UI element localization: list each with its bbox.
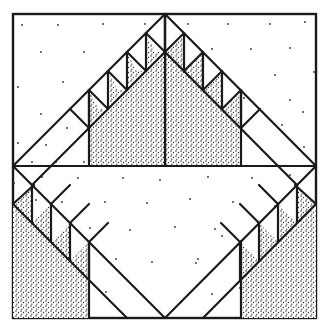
background-dot — [104, 201, 106, 203]
background-dot — [313, 71, 315, 73]
background-dot — [17, 86, 19, 88]
background-dot — [146, 202, 148, 204]
background-dot — [35, 199, 37, 201]
background-dot — [269, 23, 271, 25]
background-dot — [21, 24, 23, 26]
background-dot — [221, 235, 223, 237]
quilt-block-diagram — [0, 0, 325, 328]
background-dot — [214, 228, 216, 230]
background-dot — [281, 124, 283, 126]
background-dot — [303, 146, 305, 148]
background-dot — [302, 111, 304, 113]
background-dot — [13, 182, 15, 184]
background-dot — [61, 201, 63, 203]
background-dot — [89, 227, 91, 229]
background-dot — [102, 23, 104, 25]
background-dot — [151, 261, 153, 263]
background-dot — [227, 23, 229, 25]
background-dot — [159, 179, 161, 181]
background-dot — [57, 24, 59, 26]
background-dot — [195, 262, 197, 264]
background-dot — [17, 142, 19, 144]
background-dot — [211, 293, 213, 295]
background-dot — [105, 291, 107, 293]
background-dot — [31, 161, 33, 163]
background-dot — [40, 51, 42, 53]
background-dot — [197, 258, 199, 260]
background-dot — [274, 74, 276, 76]
background-dot — [207, 176, 209, 178]
background-dot — [122, 177, 124, 179]
background-dot — [250, 48, 252, 50]
background-dot — [189, 198, 191, 200]
background-dot — [83, 161, 85, 163]
background-dot — [40, 113, 42, 115]
background-dot — [251, 177, 253, 179]
background-dot — [83, 51, 85, 53]
background-dot — [211, 48, 213, 50]
background-dot — [174, 226, 176, 228]
background-dot — [243, 97, 245, 99]
background-dot — [187, 23, 189, 25]
background-dot — [45, 144, 47, 146]
background-dot — [129, 229, 131, 231]
background-dot — [66, 127, 68, 129]
background-dot — [304, 21, 306, 23]
background-dot — [289, 47, 291, 49]
background-dot — [62, 81, 64, 83]
background-dot — [115, 258, 117, 260]
background-dot — [144, 23, 146, 25]
background-dot — [289, 174, 291, 176]
background-dot — [232, 201, 234, 203]
background-dot — [289, 99, 291, 101]
background-dot — [77, 177, 79, 179]
